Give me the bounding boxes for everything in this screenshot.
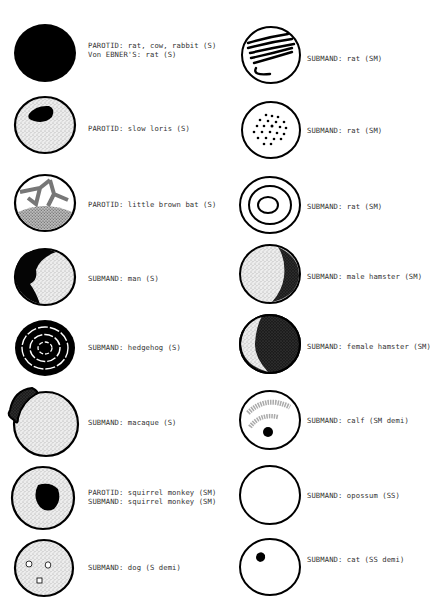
label-line: SUBMAND: calf (SM demi) [307,416,409,425]
label-line: SUBMAND: hedgehog (S) [88,343,181,352]
label-line: PAROTID: slow loris (S) [88,124,190,133]
capped-acinus-icon [2,384,82,458]
solid-acinus-icon [12,22,78,84]
right-crescent-acinus-icon [238,243,302,305]
empty-acinus-icon [238,464,302,526]
label-line: SUBMAND: man (S) [88,274,159,283]
label-line: SUBMAND: male hamster (SM) [307,272,422,281]
dark-acinus-icon [238,313,302,375]
center-dark-acinus-icon [10,465,76,531]
dotted-acinus-icon [240,99,302,161]
label-line: PAROTID: rat, cow, rabbit (S) [88,41,216,50]
ringed-acinus-icon [12,317,78,379]
dot-acinus-icon [238,536,302,598]
network-acinus-icon [12,172,78,234]
label-line: SUBMAND: rat (SM) [307,202,382,211]
label-line: SUBMAND: female hamster (SM) [307,342,431,351]
label-line: SUBMAND: rat (SM) [307,54,382,63]
stippled-acinus-icon [12,94,78,156]
crescent-acinus-icon [12,246,78,308]
vacuolated-acinus-icon [12,537,76,599]
label-line: SUBMAND: macaque (S) [88,418,177,427]
concentric-acinus-icon [238,174,302,236]
label-line: Von EBNER'S: rat (S) [88,50,216,59]
label-line: SUBMAND: opossum (SS) [307,491,400,500]
label-line: SUBMAND: squirrel monkey (SM) [88,497,216,506]
label-line: SUBMAND: rat (SM) [307,126,382,135]
label-line: PAROTID: squirrel monkey (SM) [88,488,216,497]
wavy-acinus-icon [240,24,302,86]
label-line: SUBMAND: cat (SS demi) [307,555,404,564]
label-line: PAROTID: little brown bat (S) [88,200,216,209]
demilune-acinus-icon [238,389,302,451]
label-line: SUBMAND: dog (S demi) [88,563,181,572]
